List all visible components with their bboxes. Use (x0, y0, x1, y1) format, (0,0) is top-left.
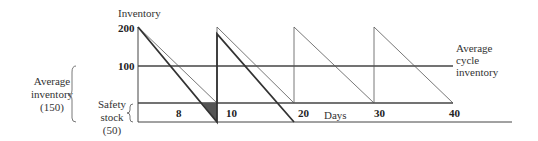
avg-inventory-label-3: (150) (40, 101, 64, 114)
y-axis-title: Inventory (118, 7, 161, 19)
x-axis-title: Days (324, 109, 347, 121)
avg-inventory-label-2: inventory (31, 88, 74, 100)
x-tick-40: 40 (449, 107, 461, 119)
safety-stock-label-1: Safety (98, 98, 127, 110)
x-tick-30: 30 (374, 107, 386, 119)
x-tick-8: 8 (176, 107, 182, 119)
inventory-sawtooth-chart: Inventory 200 100 8 10 20 30 40 Days Ave… (0, 0, 538, 141)
y-tick-200: 200 (118, 22, 135, 34)
avg-inventory-label-1: Average (34, 75, 71, 87)
x-tick-20: 20 (298, 107, 310, 119)
safety-stock-label-2: stock (100, 111, 124, 123)
x-tick-10: 10 (226, 107, 238, 119)
planned-inventory-line (138, 27, 453, 103)
avg-cycle-label-3: inventory (456, 66, 499, 78)
avg-cycle-label-1: Average (456, 42, 493, 54)
safety-stock-label-3: (50) (103, 124, 122, 137)
y-tick-100: 100 (118, 60, 135, 72)
safety-stock-brace (127, 104, 133, 122)
avg-cycle-label-2: cycle (456, 54, 479, 66)
